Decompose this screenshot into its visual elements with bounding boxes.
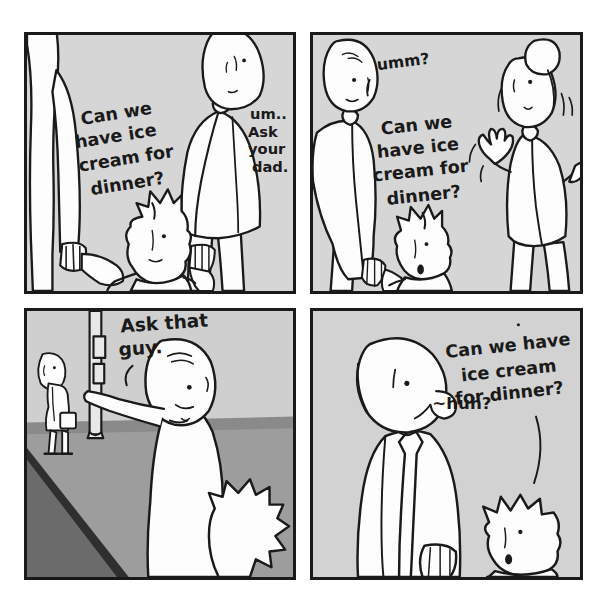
panel-3-art: Ask that guy. xyxy=(27,311,293,577)
panel-1-art: Can we have ice cream for dinner? um.. A… xyxy=(27,35,293,291)
ink-dot xyxy=(517,323,520,326)
bald-man-in-tie-figure xyxy=(357,338,460,577)
panel-4-art: ~huh? Can we have ice cream for dinner? xyxy=(313,311,580,577)
pole-sign-lower xyxy=(94,364,105,384)
pole-sign-upper xyxy=(94,336,106,358)
panel-1-father-dialogue: um.. Ask your dad. xyxy=(248,105,288,175)
comic-panel-4: ~huh? Can we have ice cream for dinner? xyxy=(310,308,583,580)
dialogue-line: um.. xyxy=(250,105,287,122)
dialogue-line: guy. xyxy=(118,336,163,360)
comic-panel-2: umm? Can we have ice cream for dinner? xyxy=(310,32,583,294)
father-hand xyxy=(189,244,214,291)
comic-panel-3: Ask that guy. xyxy=(24,308,296,580)
comic-strip: Can we have ice cream for dinner? um.. A… xyxy=(0,0,593,610)
dialogue-line: dad. xyxy=(252,158,288,175)
comic-panel-1: Can we have ice cream for dinner? um.. A… xyxy=(24,32,296,294)
panel-2-art: umm? Can we have ice cream for dinner? xyxy=(313,35,580,291)
briefcase xyxy=(60,413,76,429)
dialogue-line: Ask xyxy=(248,123,279,140)
dialogue-line: your xyxy=(248,140,286,157)
